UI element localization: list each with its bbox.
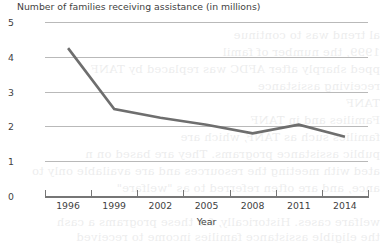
line-chart-figure: Number of families receiving assistance … — [0, 0, 386, 243]
series-polyline — [68, 48, 345, 137]
data-series-line — [0, 0, 386, 243]
